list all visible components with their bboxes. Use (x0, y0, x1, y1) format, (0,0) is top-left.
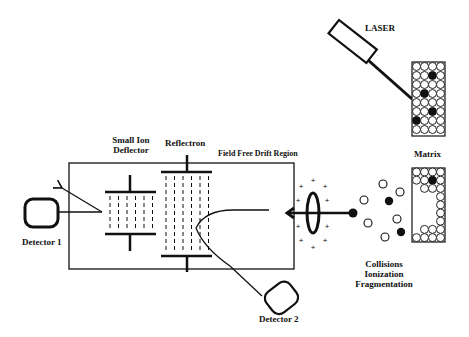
ion-particles-icon (349, 180, 406, 241)
small-ion-deflector-label-2: Deflector (113, 145, 148, 155)
svg-text:+: + (296, 222, 301, 231)
svg-text:+: + (325, 222, 330, 231)
collisions-label: Collisions (365, 259, 403, 269)
small-ion-deflector-label-1: Small Ion (112, 135, 149, 145)
svg-text:+: + (325, 196, 330, 205)
matrix-sample-holder-icon (412, 168, 445, 242)
svg-text:+: + (299, 236, 304, 245)
detector-2-icon (262, 278, 302, 317)
svg-text:+: + (311, 176, 316, 185)
field-free-drift-region-box (69, 163, 294, 269)
reflectron-icon (161, 155, 212, 272)
detector-1-label: Detector 1 (22, 237, 62, 247)
field-free-drift-region-label: Field Free Drift Region (218, 149, 298, 158)
reflectron-label: Reflectron (165, 138, 205, 148)
laser-label: LASER (365, 23, 396, 33)
detector-2-label: Detector 2 (259, 314, 299, 324)
detector-1-icon (25, 199, 58, 227)
maldi-tof-diagram: LASER Matrix Collisions Ionization Fragm… (0, 0, 469, 337)
svg-text:+: + (323, 236, 328, 245)
svg-text:+: + (311, 243, 316, 252)
matrix-grid-icon (412, 62, 445, 136)
small-ion-deflector-icon (105, 175, 156, 251)
matrix-label: Matrix (414, 149, 441, 159)
ionization-label: Ionization (364, 269, 403, 279)
svg-text:+: + (296, 196, 301, 205)
ion-flight-path (58, 188, 269, 296)
fragmentation-label: Fragmentation (355, 279, 413, 289)
svg-text:+: + (299, 182, 304, 191)
svg-text:+: + (323, 182, 328, 191)
